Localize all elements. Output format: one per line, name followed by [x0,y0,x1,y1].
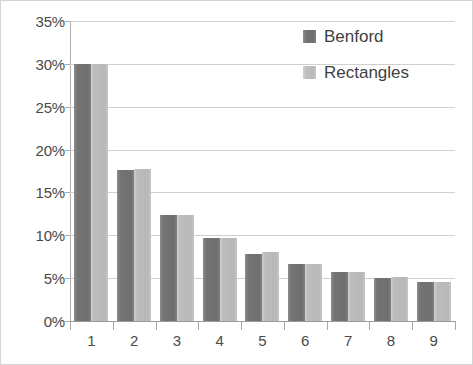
x-axis-tick-label: 7 [344,332,352,349]
x-axis-tick-mark [412,322,413,330]
bar-rectangles-7 [348,272,365,321]
bar-rectangles-6 [305,264,322,321]
x-axis-tick-mark [198,322,199,330]
bar-benford-5 [245,254,262,321]
y-axis: 0%5%10%15%20%25%30%35% [1,21,65,321]
chart-legend: BenfordRectangles [303,28,453,100]
x-axis-labels: 123456789 [70,332,455,356]
x-axis-tick-mark [327,322,328,330]
x-axis-tick-mark [241,322,242,330]
bar-benford-6 [288,264,305,321]
bar-benford-2 [117,170,134,321]
x-axis-tick-label: 5 [258,332,266,349]
y-axis-tick-label: 25% [3,98,65,115]
bar-rectangles-5 [262,252,279,321]
x-axis-tick-label: 9 [429,332,437,349]
x-axis-tick-label: 8 [387,332,395,349]
bar-benford-7 [331,272,348,321]
bar-benford-9 [417,282,434,321]
bar-rectangles-2 [134,169,151,321]
x-axis-tick-label: 4 [216,332,224,349]
legend-label: Benford [324,28,384,45]
bar-chart: 0%5%10%15%20%25%30%35% 123456789 Benford… [0,0,473,365]
bar-rectangles-3 [177,215,194,321]
bar-rectangles-8 [391,277,408,321]
y-axis-tick-label: 5% [3,270,65,287]
bar-benford-8 [374,278,391,321]
y-axis-tick-label: 30% [3,55,65,72]
legend-item-rectangles[interactable]: Rectangles [303,64,453,81]
legend-item-benford[interactable]: Benford [303,28,453,45]
x-axis-tick-label: 1 [87,332,95,349]
bar-benford-4 [203,238,220,321]
bar-group [198,21,241,321]
bar-benford-3 [160,215,177,321]
bar-group [70,21,113,321]
y-axis-tick-label: 20% [3,141,65,158]
y-axis-tick-label: 0% [3,313,65,330]
bar-group [241,21,284,321]
x-axis-tick-mark [156,322,157,330]
x-axis-tick-label: 3 [173,332,181,349]
legend-swatch-icon [303,66,316,79]
x-axis-tick-mark [113,322,114,330]
bar-group [156,21,199,321]
x-axis-tick-mark [455,322,456,330]
x-axis-tick-mark [284,322,285,330]
y-axis-tick-label: 35% [3,13,65,30]
x-axis-tick-mark [70,322,71,330]
x-axis-ticks [70,322,455,331]
bar-benford-1 [74,64,91,321]
bar-rectangles-4 [220,238,237,321]
y-axis-tick-label: 15% [3,184,65,201]
y-axis-tick-label: 10% [3,227,65,244]
legend-swatch-icon [303,30,316,43]
legend-label: Rectangles [324,64,409,81]
x-axis-tick-label: 2 [130,332,138,349]
bar-rectangles-1 [91,64,108,321]
x-axis-tick-mark [369,322,370,330]
bar-group [113,21,156,321]
x-axis-tick-label: 6 [301,332,309,349]
bar-rectangles-9 [434,282,451,321]
